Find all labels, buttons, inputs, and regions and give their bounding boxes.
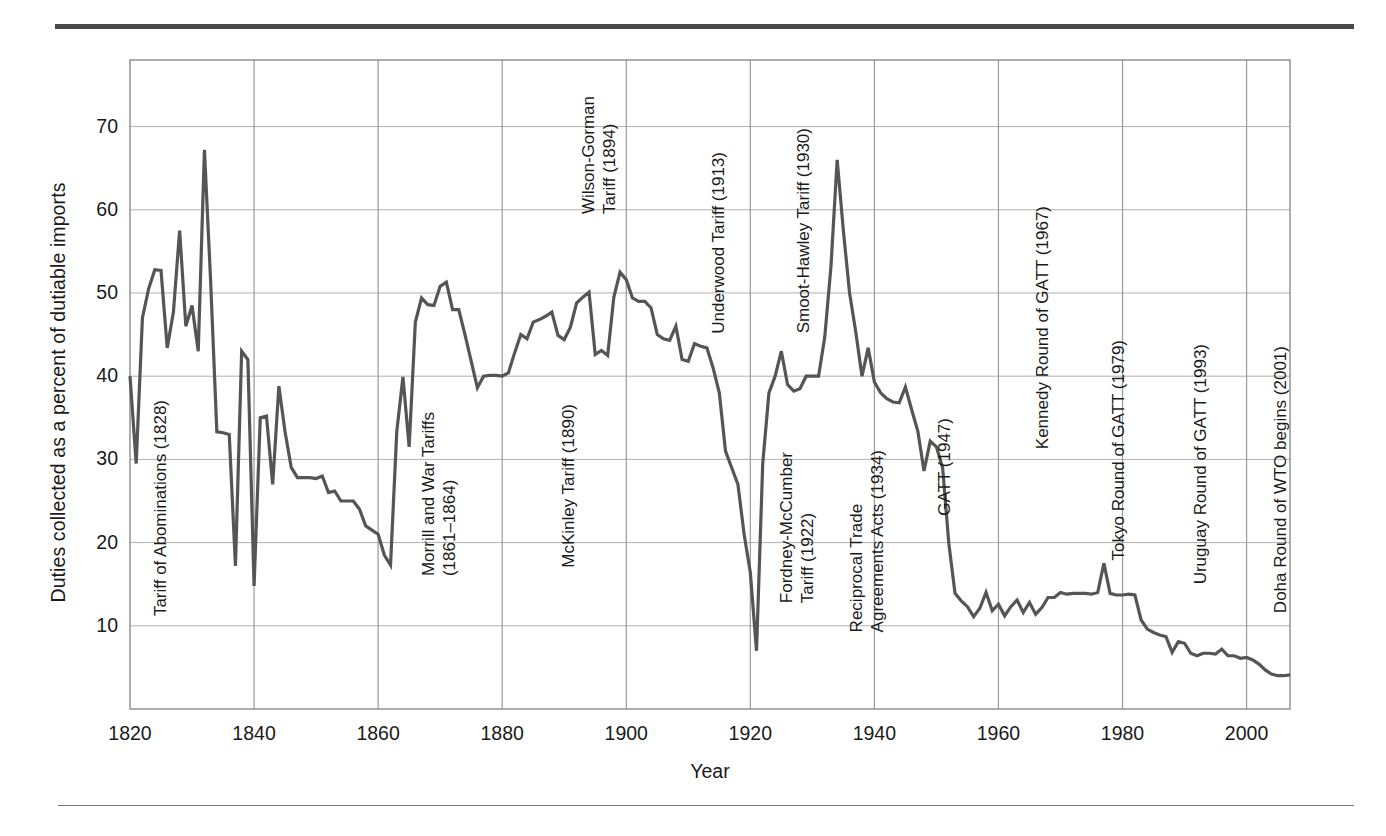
annotation-line: Reciprocal Trade [846, 450, 867, 632]
annotation-uruguay-round-of-gatt: Uruguay Round of GATT (1993) [1190, 344, 1211, 584]
annotation-reciprocal-trade-agreements-acts: Reciprocal TradeAgreements Acts (1934) [846, 450, 888, 632]
annotation-line: Smoot-Hawley Tariff (1930) [793, 128, 814, 333]
annotation-line: Doha Round of WTO begins (2001) [1270, 346, 1291, 613]
annotation-line: Kennedy Round of GATT (1967) [1032, 206, 1053, 449]
annotation-doha-round-of-wto: Doha Round of WTO begins (2001) [1270, 346, 1291, 613]
annotation-wilson-gorman-tariff: Wilson-GormanTariff (1894) [578, 96, 620, 214]
annotation-line: GATT (1947) [934, 418, 955, 516]
annotation-line: Underwood Tariff (1913) [708, 152, 729, 334]
annotation-fordney-mccumber-tariff: Fordney-McCumberTariff (1922) [776, 452, 818, 603]
annotation-gatt: GATT (1947) [934, 418, 955, 516]
annotation-tokyo-round-of-gatt: Tokyo Round of GATT (1979) [1108, 340, 1129, 560]
annotation-smoot-hawley-tariff: Smoot-Hawley Tariff (1930) [793, 128, 814, 333]
annotation-morrill-and-war-tariffs: Morrill and War Tariffs(1861–1864) [418, 412, 460, 576]
annotation-line: Wilson-Gorman [578, 96, 599, 214]
annotation-line: Tariff (1922) [797, 452, 818, 603]
plot-area [0, 0, 1386, 836]
annotation-line: Tariff (1894) [599, 96, 620, 214]
annotation-line: Tariff of Abominations (1828) [150, 400, 171, 616]
annotation-kennedy-round-of-gatt: Kennedy Round of GATT (1967) [1032, 206, 1053, 449]
tariff-history-chart: Duties collected as a percent of dutiabl… [0, 0, 1386, 836]
annotation-line: Fordney-McCumber [776, 452, 797, 603]
annotation-line: Agreements Acts (1934) [867, 450, 888, 632]
annotation-underwood-tariff: Underwood Tariff (1913) [708, 152, 729, 334]
annotation-line: Uruguay Round of GATT (1993) [1190, 344, 1211, 584]
annotation-line: Morrill and War Tariffs [418, 412, 439, 576]
annotation-tariff-of-abominations: Tariff of Abominations (1828) [150, 400, 171, 616]
annotation-line: McKinley Tariff (1890) [558, 404, 579, 568]
annotation-line: Tokyo Round of GATT (1979) [1108, 340, 1129, 560]
annotation-line: (1861–1864) [439, 412, 460, 576]
annotation-mckinley-tariff: McKinley Tariff (1890) [558, 404, 579, 568]
